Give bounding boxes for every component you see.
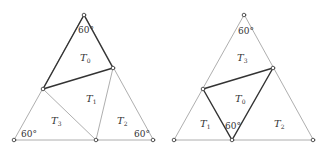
region-label: T1 — [200, 118, 211, 130]
region-label: T3 — [237, 52, 248, 64]
region-label: T0 — [80, 52, 91, 64]
angle-label: 60° — [134, 129, 150, 139]
angle-label: 60° — [238, 26, 254, 36]
region-label: T2 — [274, 118, 285, 130]
region-label: T2 — [117, 115, 128, 127]
left-figure: T0 T1 T3 T2 60° 60° 60° — [12, 13, 155, 142]
right-figure: T3 T0 T1 T2 60° 60° — [172, 13, 315, 142]
region-label: T1 — [86, 93, 97, 105]
angle-label: 60° — [21, 129, 37, 139]
angle-label: 60° — [78, 25, 94, 35]
region-label: T0 — [235, 93, 246, 105]
triangle-diagrams: T0 T1 T3 T2 60° 60° 60° T3 T0 T1 T2 60° … — [0, 0, 330, 154]
angle-label: 60° — [225, 121, 241, 131]
region-label: T3 — [51, 115, 62, 127]
